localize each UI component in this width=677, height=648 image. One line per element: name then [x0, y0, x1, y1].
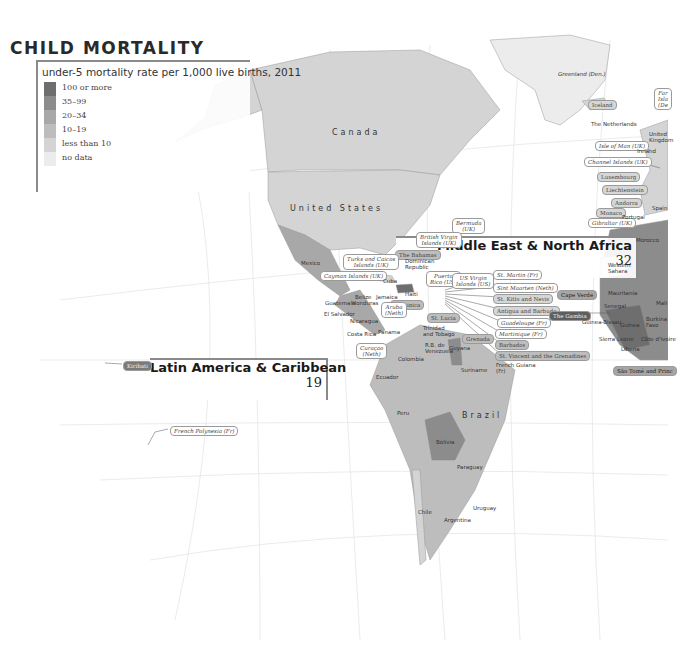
country-tag: Luxembourg — [597, 172, 640, 182]
country-label: Sierra Leone — [599, 336, 634, 342]
legend-swatch — [44, 82, 56, 96]
country-tag: Aruba(Neth) — [381, 302, 407, 318]
legend: under-5 mortality rate per 1,000 live bi… — [36, 60, 250, 192]
legend-swatch — [44, 138, 56, 152]
country-tag: Iceland — [588, 100, 617, 110]
map-title: CHILD MORTALITY — [10, 38, 205, 58]
country-label: Uruguay — [473, 505, 496, 511]
country-tag: Liechtenstein — [602, 185, 648, 195]
country-tag: St. Martin (Fr) — [493, 270, 542, 280]
country-label: BurkinaFaso — [646, 316, 667, 328]
country-tag: Channel Islands (UK) — [584, 157, 652, 167]
country-label: Chile — [418, 509, 432, 515]
country-tag: Guadeloupe (Fr) — [497, 318, 551, 328]
country-tag: Barbados — [495, 340, 529, 350]
label-greenland: Greenland (Den.) — [558, 71, 606, 77]
country-tag: Grenada — [462, 334, 494, 344]
country-tag: Martinique (Fr) — [495, 329, 547, 339]
legend-swatch — [44, 110, 56, 124]
country-label: Trinidadand Tobago — [423, 325, 455, 337]
country-tag: French Polynesia (Fr) — [170, 426, 238, 436]
country-tag: British VirginIslands (UK) — [416, 232, 462, 248]
country-label: Côte d'Ivoire — [641, 336, 676, 342]
country-label: Panama — [378, 329, 400, 335]
region-value: 19 — [150, 375, 322, 390]
country-tag: Cayman Islands (UK) — [320, 271, 387, 281]
country-label: Peru — [397, 410, 409, 416]
legend-label: 20–34 — [62, 111, 86, 120]
country-tag: St. Vincent and the Grenadines — [495, 351, 590, 361]
legend-swatch — [44, 96, 56, 110]
legend-item: 10–19 — [44, 124, 244, 138]
country-tag: Andorra — [611, 198, 642, 208]
region-name: Latin America & Caribbean — [150, 360, 322, 375]
country-label: French Guiana(Fr) — [496, 362, 536, 374]
country-label: Jamaica — [376, 294, 398, 300]
greenland — [490, 35, 610, 125]
country-tag: Cape Verde — [557, 290, 597, 300]
country-label: Guyana — [449, 345, 470, 351]
legend-label: 10–19 — [62, 125, 86, 134]
legend-title: under-5 mortality rate per 1,000 live bi… — [42, 66, 301, 78]
country-label: Morocco — [636, 237, 659, 243]
legend-label: 100 or more — [62, 83, 112, 92]
country-label: Guinea — [620, 322, 640, 328]
country-label: Suriname — [461, 367, 487, 373]
country-label: Senegal — [604, 303, 626, 309]
country-label: Paraguay — [457, 464, 483, 470]
country-label: Guatemala — [325, 300, 355, 306]
legend-label: 35–99 — [62, 97, 86, 106]
country-label: Cuba — [383, 278, 397, 284]
legend-item: less than 10 — [44, 138, 244, 152]
country-label: Portugal — [622, 214, 645, 220]
country-label: Argentina — [444, 517, 471, 523]
label-united-states: United States — [290, 204, 383, 213]
country-label: Honduras — [352, 300, 378, 306]
country-label: Spain — [652, 205, 667, 211]
country-label: El Salvador — [324, 311, 355, 317]
country-label: Mauritania — [608, 290, 637, 296]
legend-swatch — [44, 152, 56, 166]
country-tag: Turks and CaicosIslands (UK) — [343, 254, 399, 270]
country-label: Costa Rica — [347, 331, 376, 337]
legend-item: 100 or more — [44, 82, 244, 96]
country-tag: Kiribati — [123, 361, 152, 371]
legend-label: no data — [62, 153, 92, 162]
country-label: Ireland — [637, 148, 656, 154]
country-label: Bolivia — [436, 439, 454, 445]
country-tag: Curaçao(Neth) — [356, 343, 387, 359]
legend-item: 20–34 — [44, 110, 244, 124]
country-tag: São Tomé and Princ — [613, 366, 677, 376]
country-label: DominicanRepublic — [405, 258, 434, 270]
legend-swatch — [44, 124, 56, 138]
country-tag: St. Lucia — [427, 313, 460, 323]
country-label: UnitedKingdom — [649, 131, 673, 143]
country-label: Haiti — [405, 291, 418, 297]
country-tag: St. Kitts and Nevis — [493, 294, 553, 304]
country-label: The Netherlands — [591, 121, 637, 127]
label-brazil: Brazil — [462, 411, 502, 420]
country-tag: US VirginIslands (US) — [452, 273, 494, 289]
country-label: Mali — [656, 300, 667, 306]
country-label: Mexico — [301, 260, 320, 266]
legend-item: no data — [44, 152, 244, 166]
label-canada: Canada — [332, 128, 380, 137]
legend-item: 35–99 — [44, 96, 244, 110]
country-label: Colombia — [398, 356, 424, 362]
country-label: Ecuador — [376, 374, 398, 380]
country-label: Guinea-Bissau — [582, 319, 621, 325]
country-label: Liberia — [621, 346, 640, 352]
country-tag: FarIsla(De — [654, 88, 672, 110]
country-label: Nicaragua — [350, 318, 378, 324]
region-latin-america-caribbean: Latin America & Caribbean 19 — [150, 358, 328, 400]
country-label: WesternSahara — [608, 262, 631, 274]
legend-label: less than 10 — [62, 139, 111, 148]
country-tag: Sint Maarten (Neth) — [493, 283, 558, 293]
